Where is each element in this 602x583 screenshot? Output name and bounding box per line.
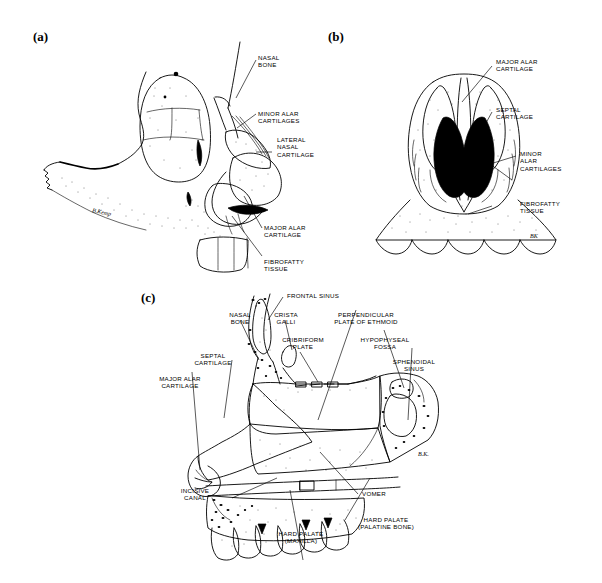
label-c-frontal-sinus: FRONTAL SINUS — [287, 292, 339, 299]
artist-signature-c: B.K. — [418, 451, 429, 457]
label-c-hard-palate-maxilla: HARD PALATE (MAXILLA) — [262, 530, 340, 545]
label-c-perpendicular-plate: PERPENDICULAR PLATE OF ETHMOID — [318, 311, 414, 326]
label-c-crista-galli: CRISTA GALLI — [258, 311, 314, 326]
label-c-hypophyseal-fossa: HYPOPHYSEAL FOSSA — [348, 336, 422, 351]
label-c-incisive-canal: INCISIVE CANAL — [168, 487, 222, 502]
label-c-septal-cartilage: SEPTAL CARTILAGE — [182, 352, 244, 367]
label-c-major-alar: MAJOR ALAR CARTILAGE — [146, 375, 214, 390]
label-c-vomer: VOMER — [362, 490, 386, 497]
bone-speckle-c — [211, 298, 430, 528]
anatomical-figure: (a) — [0, 0, 602, 583]
label-c-sphenoidal-sinus: SPHENOIDAL SINUS — [378, 358, 450, 373]
label-c-hard-palate-palatine: HARD PALATE (PALATINE BONE) — [338, 516, 434, 531]
label-c-cribriform-plate: CRIBRIFORM PLATE — [272, 336, 334, 351]
